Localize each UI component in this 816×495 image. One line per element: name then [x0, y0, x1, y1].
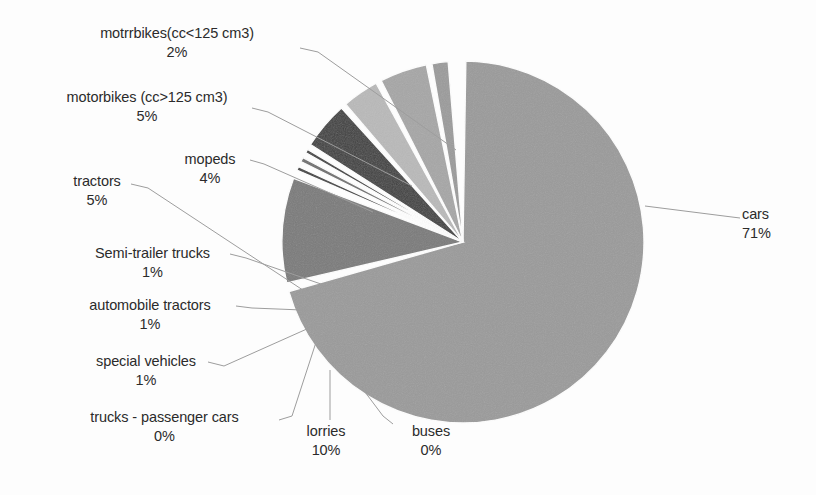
slice-label-name: lorries [286, 422, 366, 441]
slice-label-percent: 1% [66, 371, 226, 390]
slice-label-special-vehicles: special vehicles 1% [66, 352, 226, 390]
slice-label-name: automobile tractors [50, 296, 250, 315]
slice-label-name: mopeds [150, 150, 270, 169]
slice-label-tractors: tractors 5% [42, 172, 152, 210]
slice-label-name: trucks - passenger cars [52, 408, 277, 427]
slice-label-percent: 0% [52, 427, 277, 446]
slice-label-semi-trailer-trucks: Semi-trailer trucks 1% [55, 244, 250, 282]
slice-label-name: special vehicles [66, 352, 226, 371]
slice-label-percent: 10% [286, 441, 366, 460]
slice-label-percent: 4% [150, 169, 270, 188]
slice-label-percent: 2% [52, 43, 302, 62]
slice-label-percent: 5% [42, 191, 152, 210]
slice-label-cars: cars 71% [742, 205, 812, 243]
slice-label-name: cars [742, 205, 812, 224]
slice-label-trucks-passenger-cars: trucks - passenger cars 0% [52, 408, 277, 446]
slice-label-lorries: lorries 10% [286, 422, 366, 460]
slice-label-mopeds: mopeds 4% [150, 150, 270, 188]
slice-label-motorbikes-large: motorbikes (cc>125 cm3) 5% [22, 88, 272, 126]
slice-label-name: motorbikes (cc>125 cm3) [22, 88, 272, 107]
slice-label-name: buses [396, 422, 466, 441]
slice-label-percent: 1% [55, 263, 250, 282]
slice-label-percent: 1% [50, 315, 250, 334]
slice-label-automobile-tractors: automobile tractors 1% [50, 296, 250, 334]
slice-label-name: tractors [42, 172, 152, 191]
leader-line-cars [645, 206, 740, 218]
pie-slices [282, 61, 644, 423]
slice-label-percent: 71% [742, 224, 812, 243]
pie-chart: motrrbikes(cc<125 cm3) 2% motorbikes (cc… [0, 0, 816, 495]
slice-label-percent: 0% [396, 441, 466, 460]
slice-label-motorbikes-small: motrrbikes(cc<125 cm3) 2% [52, 24, 302, 62]
slice-label-name: Semi-trailer trucks [55, 244, 250, 263]
slice-label-buses: buses 0% [396, 422, 466, 460]
slice-label-name: motrrbikes(cc<125 cm3) [52, 24, 302, 43]
slice-label-percent: 5% [22, 107, 272, 126]
